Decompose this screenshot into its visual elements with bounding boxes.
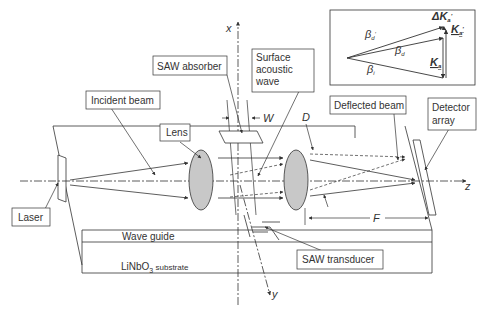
- label-incident-beam: Incident beam: [86, 91, 160, 109]
- svg-text:SAW transducer: SAW transducer: [302, 254, 375, 265]
- label-substrate: LiNbO3 substrate: [121, 261, 189, 274]
- w-label: W: [263, 112, 275, 124]
- laser-element: [58, 155, 66, 202]
- label-lens: Lens: [160, 124, 190, 141]
- d-label: D: [302, 111, 310, 123]
- saw-absorber-element: [219, 131, 263, 143]
- f-label: F: [373, 212, 381, 224]
- lens-1: [189, 150, 213, 210]
- label-detector-array: Detector array: [428, 98, 476, 130]
- label-saw-transducer: SAW transducer: [297, 250, 383, 269]
- x-axis-label: x: [225, 22, 232, 34]
- svg-text:Lens: Lens: [166, 127, 188, 138]
- svg-text:acoustic: acoustic: [256, 64, 293, 75]
- wavevector-inset: βd′ βd βi ΔKa′ Ka′ Ka: [330, 10, 475, 85]
- y-axis-label: y: [271, 288, 279, 300]
- label-saw-absorber: SAW absorber: [153, 56, 227, 75]
- label-deflected-beam: Deflected beam: [330, 96, 406, 114]
- svg-text:Laser: Laser: [18, 212, 44, 223]
- label-wave-guide: Wave guide: [122, 231, 175, 242]
- f-dimension: [305, 208, 428, 225]
- svg-text:Incident beam: Incident beam: [91, 95, 154, 106]
- svg-text:wave: wave: [255, 76, 280, 87]
- deflected-beam-rays: [230, 154, 405, 197]
- label-surface-acoustic-wave: Surface acoustic wave: [252, 49, 314, 92]
- svg-text:Deflected beam: Deflected beam: [334, 100, 404, 111]
- incident-beam-rays: [70, 158, 415, 198]
- svg-text:SAW absorber: SAW absorber: [157, 61, 222, 72]
- svg-text:Detector: Detector: [432, 102, 470, 113]
- svg-text:Surface: Surface: [256, 52, 291, 63]
- detector-array-element: [413, 140, 436, 215]
- integrated-acousto-optic-diagram: W F D x y z SAW absorber Surface acousti…: [0, 0, 484, 314]
- lens-2: [284, 150, 308, 210]
- label-laser: Laser: [12, 208, 50, 226]
- svg-text:array: array: [432, 115, 455, 126]
- z-axis-label: z: [464, 180, 471, 192]
